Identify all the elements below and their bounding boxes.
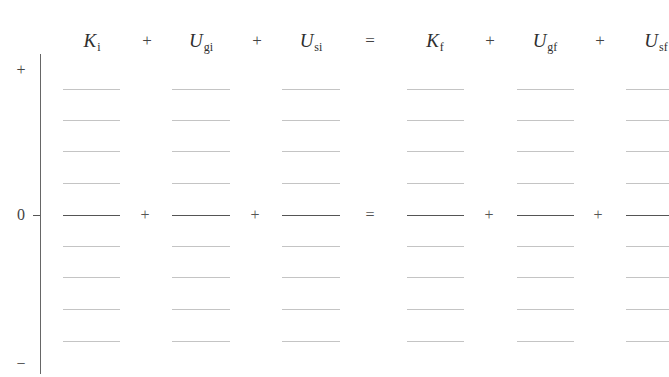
grid-level-line[interactable]	[282, 341, 340, 342]
axis-label-zero: 0	[17, 206, 25, 224]
grid-level-line[interactable]	[63, 120, 120, 121]
zero-level-line[interactable]	[407, 215, 464, 216]
operator-plus: +	[484, 206, 493, 224]
grid-level-line[interactable]	[282, 89, 340, 90]
operator-equals: =	[365, 206, 374, 224]
grid-level-line[interactable]	[517, 183, 574, 184]
grid-level-line[interactable]	[172, 151, 230, 152]
grid-level-line[interactable]	[63, 89, 120, 90]
grid-level-line[interactable]	[517, 89, 574, 90]
grid-level-line[interactable]	[407, 89, 464, 90]
term-symbol: U	[533, 30, 547, 51]
grid-level-line[interactable]	[282, 183, 340, 184]
zero-tick	[33, 215, 40, 216]
term-symbol: K	[83, 30, 96, 51]
grid-level-line[interactable]	[282, 151, 340, 152]
grid-level-line[interactable]	[626, 246, 669, 247]
term-initial-spring-potential: Usi	[300, 30, 323, 55]
grid-level-line[interactable]	[282, 309, 340, 310]
grid-level-line[interactable]	[282, 246, 340, 247]
grid-level-line[interactable]	[172, 341, 230, 342]
grid-level-line[interactable]	[407, 277, 464, 278]
zero-level-line[interactable]	[172, 215, 230, 216]
term-symbol: U	[300, 30, 314, 51]
grid-level-line[interactable]	[626, 183, 669, 184]
grid-level-line[interactable]	[626, 309, 669, 310]
grid-level-line[interactable]	[517, 341, 574, 342]
grid-level-line[interactable]	[517, 277, 574, 278]
grid-level-line[interactable]	[626, 120, 669, 121]
term-subscript: si	[314, 40, 322, 54]
operator-plus: +	[593, 206, 602, 224]
grid-level-line[interactable]	[172, 277, 230, 278]
term-initial-gravitational-potential: Ugi	[189, 30, 213, 55]
term-subscript: i	[97, 40, 100, 54]
zero-level-line[interactable]	[282, 215, 340, 216]
grid-level-line[interactable]	[63, 277, 120, 278]
term-subscript: sf	[659, 40, 668, 54]
term-subscript: f	[440, 40, 444, 54]
term-subscript: gi	[204, 40, 213, 54]
zero-level-line[interactable]	[517, 215, 574, 216]
grid-level-line[interactable]	[172, 246, 230, 247]
grid-level-line[interactable]	[63, 341, 120, 342]
operator-plus: +	[250, 206, 259, 224]
term-symbol: U	[189, 30, 203, 51]
grid-level-line[interactable]	[407, 151, 464, 152]
grid-level-line[interactable]	[407, 341, 464, 342]
term-final-spring-potential: Usf	[644, 30, 667, 55]
term-symbol: U	[644, 30, 658, 51]
grid-level-line[interactable]	[626, 151, 669, 152]
grid-level-line[interactable]	[626, 277, 669, 278]
operator-plus: +	[595, 31, 605, 51]
grid-level-line[interactable]	[63, 246, 120, 247]
grid-level-line[interactable]	[172, 120, 230, 121]
grid-level-line[interactable]	[407, 246, 464, 247]
grid-level-line[interactable]	[407, 120, 464, 121]
grid-level-line[interactable]	[517, 151, 574, 152]
grid-level-line[interactable]	[517, 246, 574, 247]
operator-plus: +	[142, 31, 152, 51]
grid-level-line[interactable]	[63, 309, 120, 310]
operator-plus: +	[140, 206, 149, 224]
vertical-axis-line	[40, 54, 41, 374]
grid-level-line[interactable]	[172, 183, 230, 184]
term-initial-kinetic: Ki	[83, 30, 100, 55]
grid-level-line[interactable]	[407, 309, 464, 310]
term-final-gravitational-potential: Ugf	[533, 30, 558, 55]
grid-level-line[interactable]	[626, 341, 669, 342]
grid-level-line[interactable]	[63, 151, 120, 152]
grid-level-line[interactable]	[517, 309, 574, 310]
grid-level-line[interactable]	[407, 183, 464, 184]
term-symbol: K	[426, 30, 439, 51]
grid-level-line[interactable]	[63, 183, 120, 184]
grid-level-line[interactable]	[172, 89, 230, 90]
operator-plus: +	[485, 31, 495, 51]
term-subscript: gf	[547, 40, 557, 54]
grid-level-line[interactable]	[282, 277, 340, 278]
operator-equals: =	[365, 31, 375, 51]
zero-level-line[interactable]	[626, 215, 669, 216]
term-final-kinetic: Kf	[426, 30, 444, 55]
zero-level-line[interactable]	[63, 215, 120, 216]
axis-label-negative: −	[16, 355, 25, 373]
grid-level-line[interactable]	[172, 309, 230, 310]
grid-level-line[interactable]	[626, 89, 669, 90]
axis-label-positive: +	[16, 61, 25, 79]
grid-level-line[interactable]	[282, 120, 340, 121]
grid-level-line[interactable]	[517, 120, 574, 121]
operator-plus: +	[252, 31, 262, 51]
